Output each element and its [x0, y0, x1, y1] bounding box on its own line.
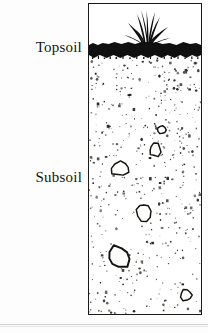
page-divider-rule — [0, 324, 208, 325]
soil-profile-box — [88, 3, 202, 315]
subsoil-label: Subsoil — [36, 170, 82, 185]
subsoil-layer — [89, 59, 201, 315]
soil-profile-figure: Topsoil Subsoil — [0, 0, 208, 333]
rock-2 — [149, 141, 164, 157]
topsoil-label: Topsoil — [36, 40, 82, 55]
rock-6 — [157, 126, 166, 134]
rock-5 — [181, 290, 193, 301]
rock-1 — [110, 160, 130, 178]
rock-4 — [107, 245, 131, 269]
subsoil-rocks — [89, 59, 201, 315]
topsoil-band — [89, 40, 201, 60]
rock-3 — [136, 204, 153, 223]
page-divider-rule-2 — [0, 326, 208, 327]
